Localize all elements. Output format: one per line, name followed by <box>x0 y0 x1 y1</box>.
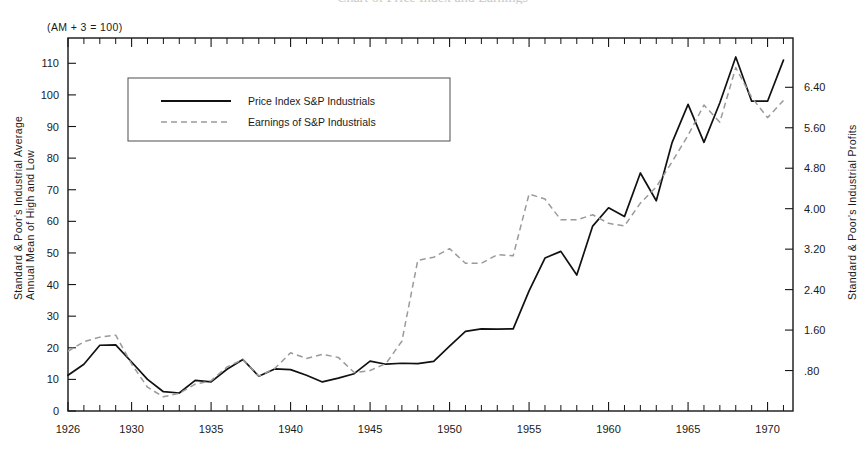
left-tick-label-60: 60 <box>47 215 59 227</box>
legend-label-earnings: Earnings of S&P Industrials <box>248 116 376 128</box>
left-axis-ticks: 0102030405060708090100110 <box>41 57 76 417</box>
bottom-tick-label-1926: 1926 <box>56 423 80 435</box>
left-tick-label-70: 70 <box>47 184 59 196</box>
bottom-tick-label-1930: 1930 <box>119 423 143 435</box>
bottom-tick-label-1950: 1950 <box>437 423 461 435</box>
right-tick-label-2.40: 2.40 <box>804 284 825 296</box>
left-axis-title-line2: Annual Mean of High and Low <box>24 150 36 300</box>
right-tick-label-4.00: 4.00 <box>804 203 825 215</box>
right-axis-title: Standard & Poor's Industrial Profits <box>846 124 858 300</box>
left-tick-label-50: 50 <box>47 247 59 259</box>
left-tick-label-100: 100 <box>41 89 59 101</box>
left-tick-label-90: 90 <box>47 121 59 133</box>
right-tick-label-4.80: 4.80 <box>804 162 825 174</box>
bottom-tick-label-1970: 1970 <box>755 423 779 435</box>
legend: Price Index S&P Industrials Earnings of … <box>128 78 450 141</box>
left-tick-label-20: 20 <box>47 342 59 354</box>
left-tick-label-30: 30 <box>47 310 59 322</box>
legend-label-price-index: Price Index S&P Industrials <box>248 95 375 107</box>
bottom-tick-label-1955: 1955 <box>517 423 541 435</box>
legend-box <box>128 78 450 141</box>
chart-figure: 0102030405060708090100110 .801.602.403.2… <box>0 0 865 453</box>
left-tick-label-110: 110 <box>41 57 59 69</box>
left-tick-label-10: 10 <box>47 373 59 385</box>
right-tick-label-.80: .80 <box>804 365 819 377</box>
right-tick-label-1.60: 1.60 <box>804 324 825 336</box>
scale-note-label: (AM + 3 = 100) <box>47 21 123 33</box>
left-tick-label-80: 80 <box>47 152 59 164</box>
bottom-tick-label-1940: 1940 <box>278 423 302 435</box>
top-axis-ticks <box>68 38 783 47</box>
left-tick-label-40: 40 <box>47 279 59 291</box>
right-axis-ticks: .801.602.403.204.004.805.606.40 <box>785 81 825 376</box>
bottom-axis-ticks: 1926193019351940194519501955196019651970 <box>56 402 784 435</box>
right-tick-label-6.40: 6.40 <box>804 81 825 93</box>
bottom-tick-label-1945: 1945 <box>358 423 382 435</box>
bottom-tick-label-1960: 1960 <box>596 423 620 435</box>
bottom-tick-label-1935: 1935 <box>199 423 223 435</box>
left-tick-label-0: 0 <box>53 405 59 417</box>
right-tick-label-3.20: 3.20 <box>804 243 825 255</box>
bottom-tick-label-1965: 1965 <box>676 423 700 435</box>
left-axis-title-line1: Standard & Poor's Industrial Average <box>12 116 24 300</box>
right-tick-label-5.60: 5.60 <box>804 122 825 134</box>
